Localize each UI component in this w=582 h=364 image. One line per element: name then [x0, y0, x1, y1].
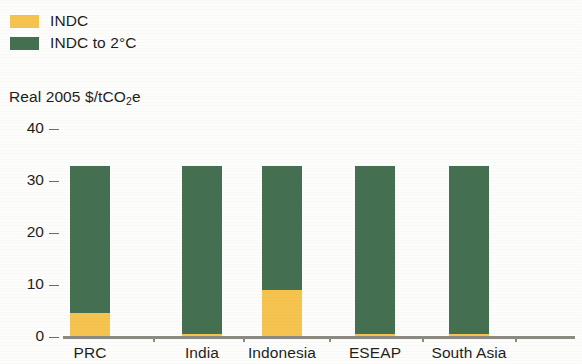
y-axis-tick-label: 20 [0, 223, 44, 241]
x-axis-tick-1 [243, 337, 245, 342]
bar-prc[interactable] [70, 166, 110, 336]
x-axis-tick-3 [422, 337, 424, 342]
y-axis-tick-label: 10 [0, 275, 44, 293]
chart-page: INDC INDC to 2°C Real 2005 $/tCO2e 40302… [0, 0, 582, 364]
bar-segment-indc-2c [70, 166, 110, 313]
y-axis-tick-20: 20 [0, 223, 59, 241]
bar-segment-indc-2c [355, 166, 395, 334]
x-axis-tick-2 [329, 337, 331, 342]
plot-area: 403020100 PRCIndiaIndonesiaESEAPSouth As… [0, 0, 582, 364]
y-axis-tick-0: 0 [0, 327, 59, 345]
x-axis-tick-0 [153, 337, 155, 342]
bar-segment-indc-2c [182, 166, 222, 334]
x-axis-label-prc: PRC [30, 344, 150, 362]
bar-segment-indc-2c [262, 166, 302, 290]
y-axis-tick-30: 30 [0, 171, 59, 189]
bar-segment-indc [355, 334, 395, 336]
bar-south-asia[interactable] [449, 166, 489, 336]
y-axis-tick-label: 40 [0, 119, 44, 137]
x-axis-line [63, 336, 575, 339]
x-axis-tick-4 [515, 337, 517, 342]
bar-eseap[interactable] [355, 166, 395, 336]
y-axis-tick-dash [49, 337, 59, 338]
bar-india[interactable] [182, 166, 222, 336]
bar-segment-indc [182, 334, 222, 336]
y-axis-tick-10: 10 [0, 275, 59, 293]
y-axis-tick-dash [49, 181, 59, 182]
y-axis-tick-dash [49, 129, 59, 130]
bar-segment-indc [262, 290, 302, 336]
y-axis-tick-40: 40 [0, 119, 59, 137]
bar-segment-indc [449, 334, 489, 336]
bar-indonesia[interactable] [262, 166, 302, 336]
bar-segment-indc-2c [449, 166, 489, 334]
y-axis-tick-label: 30 [0, 171, 44, 189]
y-axis-tick-label: 0 [0, 327, 44, 345]
y-axis-tick-dash [49, 285, 59, 286]
x-axis-label-south-asia: South Asia [409, 344, 529, 362]
y-axis-tick-dash [49, 233, 59, 234]
bar-segment-indc [70, 313, 110, 336]
